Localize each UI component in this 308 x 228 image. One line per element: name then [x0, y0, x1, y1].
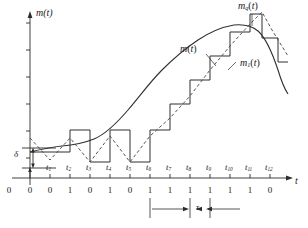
tick-sub: 3	[88, 166, 91, 172]
bit-6: 1	[144, 185, 156, 195]
bit-11: 1	[244, 185, 256, 195]
tick-sub: 10	[227, 166, 232, 172]
tick-sub: 9	[208, 166, 211, 172]
integrator-approximation-dashed	[30, 12, 288, 162]
tick-label-t6: t6	[146, 163, 151, 172]
step-size-symbol: δ	[14, 149, 18, 159]
origin-label: 0	[3, 185, 15, 195]
mq-curve-label: mq(t)	[238, 1, 258, 12]
tick-sub: 5	[128, 166, 131, 172]
bit-4: 1	[104, 185, 116, 195]
x-axis-label-text: t	[295, 175, 298, 186]
tick-sub: 11	[247, 166, 252, 172]
tick-sub: 7	[168, 166, 171, 172]
bit-3: 0	[84, 185, 96, 195]
sampling-interval-label: τ	[196, 203, 199, 212]
tick-label-t9: t9	[206, 163, 211, 172]
bit-10: 1	[224, 185, 236, 195]
tick-sub: 2	[68, 166, 71, 172]
tick-label-t12: t12	[265, 163, 273, 172]
y-axis	[26, 11, 32, 185]
tick-label-t8: t8	[186, 163, 191, 172]
m1-curve-label: m1(t)	[240, 58, 260, 69]
tick-label-t3: t3	[86, 163, 91, 172]
bit-2: 1	[64, 185, 76, 195]
tick-label-t5: t5	[126, 163, 131, 172]
y-axis-label-text: m(t)	[36, 7, 53, 18]
x-axis-label: t	[295, 176, 298, 186]
tick-label-t10: t10	[225, 163, 233, 172]
analog-signal-curve	[30, 25, 288, 152]
sampling-interval-indicator	[150, 198, 240, 218]
y-axis-label: m(t)	[36, 8, 53, 18]
tick-sub: 8	[188, 166, 191, 172]
bit-12: 0	[264, 185, 276, 195]
bit-5: 0	[124, 185, 136, 195]
bit-0: 0	[24, 185, 36, 195]
tick-label-t7: t7	[166, 163, 171, 172]
bit-7: 1	[164, 185, 176, 195]
tick-sub: 1	[48, 166, 51, 172]
tick-label-t11: t11	[245, 163, 252, 172]
tick-label-t1: t1	[46, 163, 51, 172]
figure-canvas: m(t) t mq(t) m(t) m1(t) δ τ t1 t2 t3 t4 …	[0, 0, 308, 228]
step-size-label: δ	[14, 150, 18, 159]
m-curve-label: m(t)	[180, 44, 197, 54]
bit-1: 0	[44, 185, 56, 195]
sampling-interval-symbol: τ	[196, 202, 199, 212]
bit-9: 1	[204, 185, 216, 195]
tick-label-t2: t2	[66, 163, 71, 172]
tick-sub: 12	[267, 166, 272, 172]
tick-label-t4: t4	[106, 163, 111, 172]
bit-8: 1	[184, 185, 196, 195]
tick-sub: 4	[108, 166, 111, 172]
tick-sub: 6	[148, 166, 151, 172]
